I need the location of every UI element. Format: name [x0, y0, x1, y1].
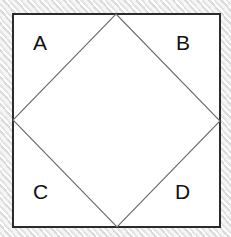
- region-label-d: D: [175, 181, 190, 202]
- region-label-a: A: [33, 32, 47, 53]
- region-label-b: B: [176, 32, 190, 53]
- geometry-figure: A B C D: [0, 0, 231, 237]
- region-label-c: C: [33, 181, 48, 202]
